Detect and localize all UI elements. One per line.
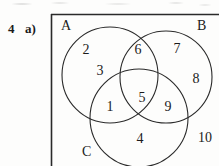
- element-5: 5: [139, 91, 146, 105]
- set-label-b: B: [197, 19, 206, 33]
- venn-diagram-figure-page: 4 a) A B C 2 3 6 7 8 5 1 9 4 10: [0, 0, 219, 166]
- element-4: 4: [137, 132, 144, 146]
- element-10: 10: [198, 131, 212, 145]
- element-8: 8: [193, 72, 200, 86]
- element-9: 9: [165, 100, 172, 114]
- element-3: 3: [97, 64, 104, 78]
- venn-diagram-svg: [0, 0, 219, 166]
- set-label-a: A: [61, 19, 71, 33]
- element-2: 2: [83, 43, 90, 57]
- universal-set-rectangle: [51, 14, 219, 166]
- element-7: 7: [174, 42, 181, 56]
- element-6: 6: [135, 43, 142, 57]
- venn-diagram: [0, 0, 219, 166]
- circle-c: [90, 69, 188, 166]
- element-1: 1: [107, 100, 114, 114]
- set-label-c: C: [82, 145, 91, 159]
